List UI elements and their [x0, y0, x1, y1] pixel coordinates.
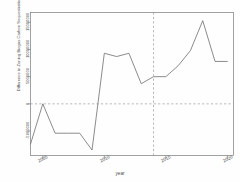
axis-ticks	[28, 22, 228, 158]
plot-frame	[31, 13, 234, 156]
data-series-line	[31, 21, 228, 150]
chart-figure: Difference in Zoning Biogas Carbon Seque…	[0, 0, 240, 182]
chart-canvas	[0, 0, 240, 182]
